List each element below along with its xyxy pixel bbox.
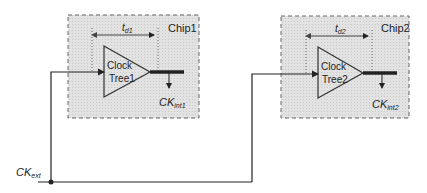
chip1-label: Chip1 bbox=[168, 22, 197, 34]
chip2-label: Chip2 bbox=[381, 22, 410, 34]
clock-tree2-line1: Clock bbox=[321, 61, 347, 72]
junction-dot bbox=[49, 180, 54, 185]
ck-ext-label: CKext bbox=[16, 166, 42, 179]
clock-tree1-line2: Tree1 bbox=[109, 73, 135, 84]
clock-tree2-line2: Tree2 bbox=[322, 74, 348, 85]
clock-distribution-diagram: Chip1 td1 Clock Tree1 CKint1 Chip2 td2 C… bbox=[0, 0, 427, 193]
chip1-block: Chip1 td1 Clock Tree1 CKint1 bbox=[68, 15, 199, 118]
chip2-block: Chip2 td2 Clock Tree2 CKint2 bbox=[281, 16, 410, 118]
clock-tree1-line1: Clock bbox=[107, 60, 133, 71]
